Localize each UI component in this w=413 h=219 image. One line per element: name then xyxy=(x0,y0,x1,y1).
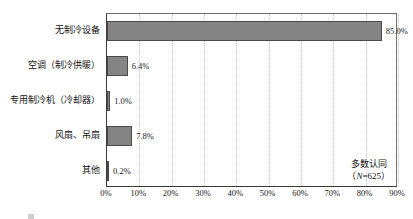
x-tick-label: 30% xyxy=(195,189,211,198)
x-tick-label: 60% xyxy=(292,189,308,198)
category-label: 空调（制冷供暖） xyxy=(28,61,100,70)
x-tick-label: 0% xyxy=(100,189,111,198)
bar-value-label: 1.0% xyxy=(114,97,132,106)
annotation-line-1: 多数认同 xyxy=(347,158,390,170)
bar-value-label: 6.4% xyxy=(132,62,150,71)
bar xyxy=(107,21,382,41)
x-tick-label: 40% xyxy=(228,189,244,198)
caption-marker-icon xyxy=(28,214,34,219)
x-tick-label: 20% xyxy=(163,189,179,198)
x-tick-label: 70% xyxy=(325,189,341,198)
plot-area: 85.0%6.4%1.0%7.8%0.2% 多数认同 （N=625） xyxy=(106,13,397,187)
x-tick-label: 50% xyxy=(260,189,276,198)
x-tick-label: 80% xyxy=(357,189,373,198)
category-label: 风扇、吊扇 xyxy=(55,130,100,139)
x-tick-label: 90% xyxy=(389,189,405,198)
bar-row: 7.8% xyxy=(107,126,396,146)
annotation-line-2: （N=625） xyxy=(347,170,390,182)
bar-row: 1.0% xyxy=(107,91,396,111)
bar xyxy=(107,56,128,76)
bar xyxy=(107,126,132,146)
figure-caption-partial xyxy=(28,212,358,219)
bar-row: 85.0% xyxy=(107,21,396,41)
bar-value-label: 0.2% xyxy=(113,166,131,175)
bar-row: 6.4% xyxy=(107,56,396,76)
gridline xyxy=(398,14,399,186)
bar xyxy=(107,161,109,181)
category-axis-labels: 无制冷设备空调（制冷供暖）专用制冷机（冷却器）风扇、吊扇其他 xyxy=(0,13,103,187)
x-tick-label: 10% xyxy=(131,189,147,198)
bar-value-label: 85.0% xyxy=(386,27,408,36)
category-label: 无制冷设备 xyxy=(55,26,100,35)
bar xyxy=(107,91,110,111)
bar-value-label: 7.8% xyxy=(136,132,154,141)
chart-figure: 无制冷设备空调（制冷供暖）专用制冷机（冷却器）风扇、吊扇其他 85.0%6.4%… xyxy=(0,0,413,219)
category-label: 其他 xyxy=(82,165,100,174)
annotation-note: 多数认同 （N=625） xyxy=(347,158,390,182)
annotation-n-value: =625） xyxy=(362,171,390,181)
x-axis-tick-labels: 0%10%20%30%40%50%60%70%80%90% xyxy=(106,189,397,203)
category-label: 专用制冷机（冷却器） xyxy=(10,96,100,105)
